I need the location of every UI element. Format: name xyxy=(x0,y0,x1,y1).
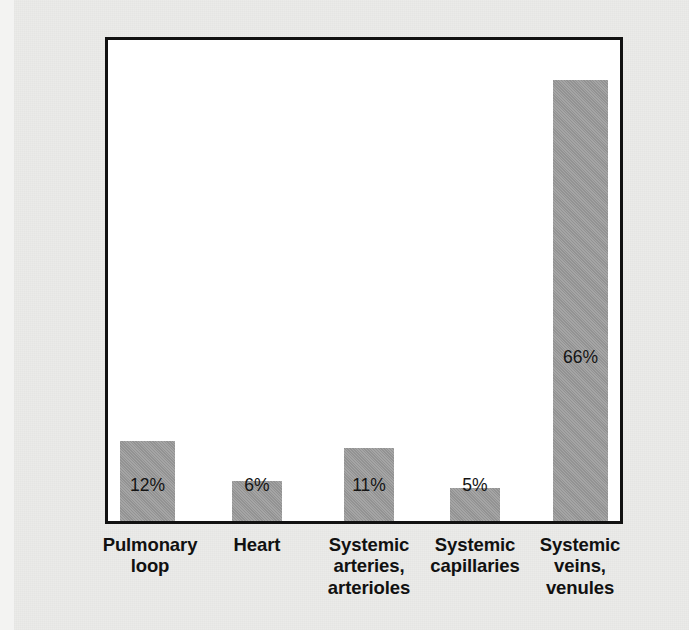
x-axis-label-5: Systemicveins,venules xyxy=(518,534,642,598)
bar-value-label: 66% xyxy=(553,349,608,367)
x-axis-label-line: veins, xyxy=(518,555,642,576)
bar-5: 66% xyxy=(553,80,608,521)
bar-4: 5% xyxy=(450,488,500,521)
x-axis-label-line: Systemic xyxy=(518,534,642,555)
x-axis-label-line: arterioles xyxy=(307,577,431,598)
bar-value-label: 11% xyxy=(344,477,394,495)
figure-page: Percent of total blood volume 12%6%11%5%… xyxy=(0,0,689,630)
bar-1: 12% xyxy=(120,441,175,521)
bar-2: 6% xyxy=(232,481,282,521)
y-axis-title: Percent of total blood volume xyxy=(0,0,96,524)
x-axis-label-line: loop xyxy=(88,555,212,576)
x-axis-label-line: venules xyxy=(518,577,642,598)
page-left-margin xyxy=(0,0,14,630)
plot-frame: 12%6%11%5%66% xyxy=(105,37,623,524)
bar-3: 11% xyxy=(344,448,394,521)
x-axis-label-1: Pulmonaryloop xyxy=(88,534,212,577)
bar-value-label: 12% xyxy=(120,477,175,495)
x-axis-label-2: Heart xyxy=(195,534,319,555)
x-axis-labels: PulmonaryloopHeartSystemicarteries,arter… xyxy=(105,534,623,630)
x-axis-label-line: Heart xyxy=(195,534,319,555)
bar-value-label: 6% xyxy=(232,477,282,495)
plot-area: 12%6%11%5%66% xyxy=(108,40,620,521)
x-axis-label-line: Pulmonary xyxy=(88,534,212,555)
bar-value-label: 5% xyxy=(450,477,500,495)
